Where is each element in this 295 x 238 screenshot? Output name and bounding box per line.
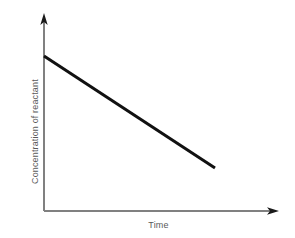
plot-area: [0, 0, 295, 238]
x-axis: [44, 207, 279, 214]
x-axis-label: Time: [0, 221, 295, 230]
y-axis: [40, 13, 47, 211]
chart-figure: Concentration of reactant Time: [0, 0, 295, 238]
data-series-group: [44, 56, 215, 168]
data-line-concentration: [44, 56, 215, 168]
y-axis-label: Concentration of reactant: [31, 79, 40, 184]
